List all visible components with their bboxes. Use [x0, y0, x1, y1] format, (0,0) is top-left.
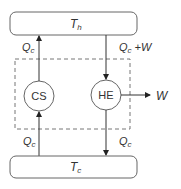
heat-engine: HE [91, 80, 121, 110]
cooling-system: CS [24, 81, 54, 111]
label-cs-to-hot: Qc [22, 41, 35, 55]
cold-reservoir: Tc [10, 156, 137, 178]
heat-engine-label: HE [98, 89, 113, 101]
hot-reservoir: Th [10, 12, 137, 35]
cooling-system-label: CS [31, 90, 46, 102]
label-hot-to-he: Qc +W [119, 41, 153, 55]
label-cold-to-cs: Qc [23, 135, 36, 149]
label-he-to-cold: Qc [119, 135, 132, 149]
heat-engine-diagram: Th CS HE Qc Qc +W Qc Qc W Tc [0, 0, 181, 189]
label-work-out: W [156, 89, 169, 103]
